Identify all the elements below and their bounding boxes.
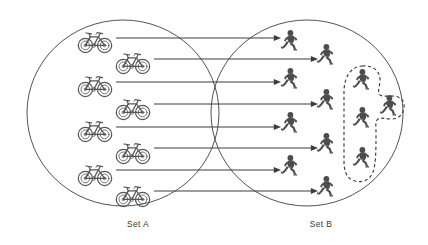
bicycle-icon: [78, 77, 111, 97]
person-icon: [380, 95, 397, 116]
mapping-arrow: [116, 167, 281, 173]
set-b-circle: [211, 20, 403, 206]
bicycle-icon: [78, 33, 111, 53]
set-b-label: Set B: [310, 219, 333, 229]
set-a-items: [78, 33, 149, 207]
mapping-arrow: [116, 35, 281, 41]
bicycle-icon: [78, 122, 111, 142]
mapping-arrow: [154, 145, 318, 151]
set-a-label: Set A: [127, 219, 149, 229]
set-a-circle: [27, 20, 219, 206]
person-icon: [317, 44, 334, 65]
person-icon: [317, 89, 334, 110]
person-icon: [281, 112, 298, 133]
mapping-arrow: [154, 101, 318, 107]
person-icon: [353, 69, 370, 90]
person-icon: [317, 176, 334, 197]
bicycle-icon: [116, 54, 149, 74]
bicycle-icon: [116, 144, 149, 164]
set-b-items-mapped: [281, 30, 334, 197]
set-mapping-diagram: Set A Set B: [0, 0, 428, 245]
bicycle-icon: [78, 166, 111, 186]
person-icon: [281, 155, 298, 176]
mapping-arrow: [116, 124, 281, 130]
person-icon: [281, 68, 298, 89]
bicycle-icon: [116, 100, 149, 120]
person-icon: [317, 133, 334, 154]
diagram-canvas: Set A Set B: [0, 0, 428, 245]
person-icon: [353, 107, 370, 128]
person-icon: [353, 147, 370, 168]
person-icon: [281, 30, 298, 50]
mapping-arrow: [154, 56, 318, 62]
set-b-items-unmapped: [353, 69, 397, 168]
bicycle-icon: [116, 187, 149, 207]
mapping-arrow: [116, 79, 281, 85]
